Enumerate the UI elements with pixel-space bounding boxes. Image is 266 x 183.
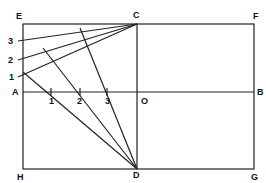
- label-left-3: 3: [8, 37, 13, 46]
- label-axis-3: 3: [105, 97, 110, 106]
- label-left-1: 1: [9, 73, 14, 82]
- label-B: B: [257, 88, 264, 97]
- label-axis-2: 2: [77, 97, 82, 106]
- geometry-diagram: [0, 0, 266, 183]
- label-left-2: 2: [8, 56, 13, 65]
- label-O: O: [141, 97, 148, 106]
- line-D-through-2: [43, 48, 137, 169]
- label-E: E: [16, 12, 22, 21]
- outer-rectangle: [23, 24, 254, 169]
- label-D: D: [133, 171, 140, 180]
- label-axis-1: 1: [49, 97, 54, 106]
- label-C: C: [133, 11, 140, 20]
- line-D-through-1: [23, 72, 137, 169]
- label-H: H: [17, 173, 24, 182]
- line-C-to-2: [18, 24, 137, 60]
- label-A: A: [12, 88, 19, 97]
- label-F: F: [253, 12, 259, 21]
- label-G: G: [251, 173, 258, 182]
